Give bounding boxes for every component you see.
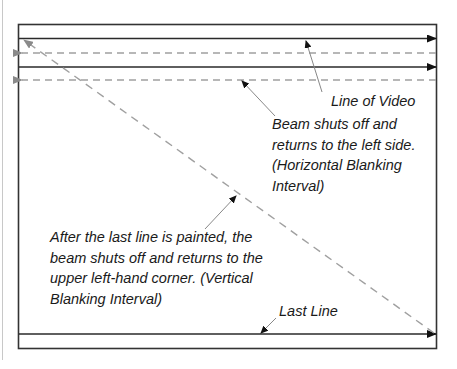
vertical-blanking-line-3: upper left-hand corner. (Vertical: [50, 268, 263, 289]
pointer-vertical-blanking: [205, 196, 236, 229]
horizontal-blanking-line-4: Interval): [272, 176, 415, 197]
pointer-horizontal-blanking: [242, 81, 275, 116]
horizontal-blanking-line-2: returns to the left side.: [272, 135, 415, 156]
horizontal-blanking-label: Beam shuts off and returns to the left s…: [272, 114, 415, 196]
last-line-label: Last Line: [279, 301, 338, 322]
horizontal-blanking-line-1: Beam shuts off and: [272, 114, 415, 135]
pointer-last-line: [261, 318, 276, 333]
horizontal-blanking-line-3: (Horizontal Blanking: [272, 155, 415, 176]
vertical-blanking-line-1: After the last line is painted, the: [50, 227, 263, 248]
vertical-blanking-line-4: Blanking Interval): [50, 289, 263, 310]
vertical-blanking-label: After the last line is painted, the beam…: [50, 227, 263, 309]
line-of-video-label: Line of Video: [331, 91, 415, 112]
vertical-blanking-line-2: beam shuts off and returns to the: [50, 248, 263, 269]
